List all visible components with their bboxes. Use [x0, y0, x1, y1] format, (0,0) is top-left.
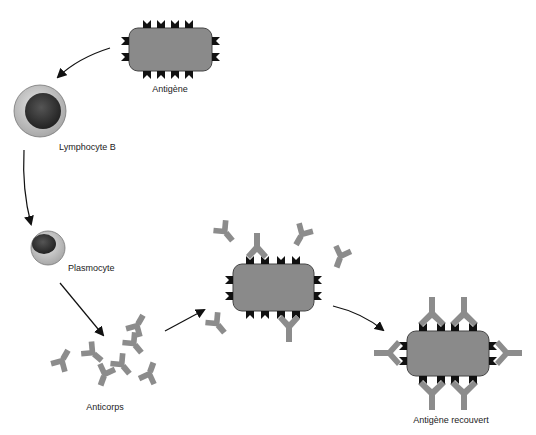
arrow-plasmocyte-to-antibodies — [60, 283, 103, 335]
arrow-antibodies-to-antigen — [165, 310, 204, 331]
plasmocyte-label: Plasmocyte — [68, 263, 115, 273]
lymphocyte-b-cell — [14, 85, 66, 137]
antigen — [121, 20, 220, 79]
arrow-lymphocyte-to-plasmocyte — [24, 150, 31, 224]
lymphocyte-label: Lymphocyte B — [59, 142, 116, 152]
arrow-to-covered-antigen — [333, 306, 383, 330]
antigen-label: Antigène — [152, 84, 188, 94]
arrow-antigen-to-lymphocyte — [58, 48, 110, 77]
covered-antigen — [374, 297, 522, 410]
antigen-binding — [203, 217, 354, 342]
covered-antigen-label: Antigène recouvert — [413, 415, 489, 425]
antibodies-label: Anticorps — [86, 402, 124, 412]
plasmocyte-cell — [31, 231, 65, 265]
antibodies-cluster — [48, 310, 162, 388]
immune-response-diagram: Antigène Lymphocyte B Plasmocyte Anticor… — [0, 0, 536, 435]
